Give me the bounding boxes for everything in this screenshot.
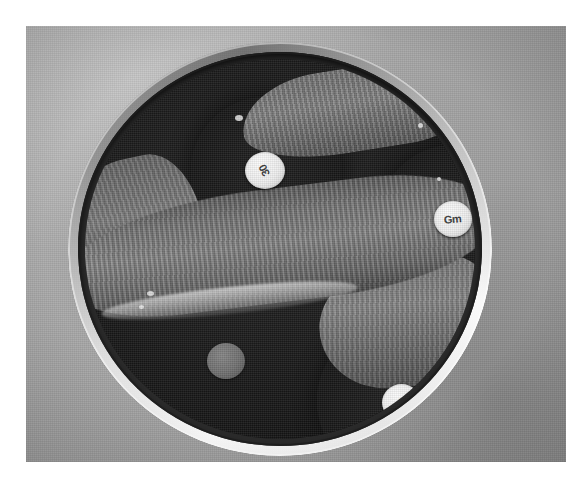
antibiotic-disk-right-label: Gm (444, 213, 462, 225)
condensation-speck (418, 123, 423, 128)
condensation-speck (437, 177, 441, 181)
screenshot-root: 30 Gm S (0, 0, 581, 480)
condensation-speck (139, 305, 144, 309)
antibiotic-disk-bottom: S (382, 384, 421, 421)
condensation-speck (235, 115, 243, 121)
antibiotic-disk-obscured (207, 343, 245, 379)
petri-dish: 30 Gm S (68, 42, 492, 456)
photo-caption (0, 0, 1, 1)
antibiotic-disk-bottom-label: S (396, 396, 407, 409)
agar-surface: 30 Gm S (85, 59, 475, 439)
antibiotic-disk-right: Gm (434, 201, 472, 237)
photograph: 30 Gm S (26, 26, 566, 462)
condensation-speck (147, 291, 154, 296)
antibiotic-disk-top-label: 30 (258, 163, 273, 178)
antibiotic-disk-top: 30 (245, 152, 285, 189)
